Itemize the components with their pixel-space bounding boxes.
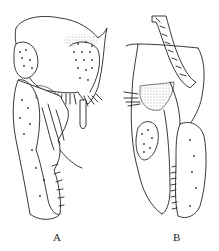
panel-label-a: A: [53, 230, 61, 244]
insect-genitalia-drawing-a: [0, 0, 120, 230]
panel-label-b: B: [173, 230, 180, 244]
insect-genitalia-drawing-b: [120, 0, 219, 230]
figure-panel-b: [120, 0, 219, 230]
figure-panel-a: [0, 0, 120, 230]
